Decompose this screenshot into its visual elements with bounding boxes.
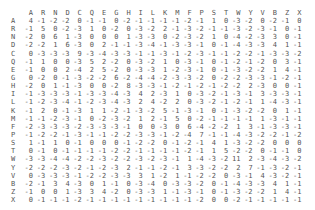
matrix-cell: 4	[265, 180, 277, 188]
matrix-cell: -2	[192, 33, 204, 41]
column-header: W	[228, 9, 240, 17]
matrix-cell: -2	[106, 82, 118, 90]
matrix-cell: 0	[94, 139, 106, 147]
matrix-cell: 3	[131, 172, 143, 180]
matrix-cell: -3	[45, 50, 57, 58]
matrix-cell: 1	[167, 90, 179, 98]
matrix-cell: -3	[155, 50, 167, 58]
matrix-cell: -1	[167, 188, 179, 196]
matrix-cell: 1	[143, 172, 155, 180]
matrix-cell: 6	[58, 41, 70, 49]
matrix-cell: -3	[228, 90, 240, 98]
matrix-cell: -2	[45, 115, 57, 123]
matrix-cell: -1	[289, 41, 301, 49]
matrix-cell: -3	[70, 41, 82, 49]
matrix-cell: -2	[70, 155, 82, 163]
matrix-cell: 1	[155, 58, 167, 66]
matrix-cell: -4	[265, 155, 277, 163]
matrix-cell: 0	[143, 123, 155, 131]
matrix-cell: -2	[277, 164, 289, 172]
matrix-cell: 2	[143, 90, 155, 98]
matrix-cell: 0	[216, 196, 228, 204]
matrix-cell: -1	[155, 147, 167, 155]
matrix-cell: 0	[21, 50, 33, 58]
matrix-cell: -1	[119, 196, 131, 204]
matrix-cell: -1	[33, 139, 45, 147]
matrix-cell: 0	[106, 33, 118, 41]
matrix-cell: -1	[82, 196, 94, 204]
matrix-cell: -1	[21, 107, 33, 115]
matrix-cell: -3	[204, 155, 216, 163]
matrix-cell: 0	[70, 17, 82, 25]
matrix-cell: -3	[277, 50, 289, 58]
matrix-cell: -3	[70, 82, 82, 90]
matrix-cell: -2	[216, 82, 228, 90]
matrix-cell: -1	[253, 164, 265, 172]
matrix-cell: 3	[241, 123, 253, 131]
matrix-cell: -3	[131, 58, 143, 66]
matrix-cell: -1	[277, 115, 289, 123]
matrix-cell: -1	[167, 17, 179, 25]
matrix-cell: -2	[94, 172, 106, 180]
matrix-cell: 6	[180, 123, 192, 131]
matrix-cell: -3	[131, 82, 143, 90]
matrix-cell: -3	[253, 74, 265, 82]
matrix-cell: -3	[70, 131, 82, 139]
matrix-cell: -1	[167, 107, 179, 115]
matrix-cell: -3	[265, 123, 277, 131]
matrix-cell: -2	[241, 25, 253, 33]
column-header: H	[119, 9, 131, 17]
matrix-cell: -1	[70, 139, 82, 147]
matrix-cell: 1	[277, 107, 289, 115]
matrix-cell: 1	[94, 180, 106, 188]
matrix-cell: -3	[131, 66, 143, 74]
matrix-cell: -3	[131, 25, 143, 33]
matrix-cell: 4	[58, 180, 70, 188]
matrix-cell: -2	[216, 155, 228, 163]
matrix-cell: -1	[167, 196, 179, 204]
matrix-cell: 5	[94, 66, 106, 74]
matrix-cell: -2	[180, 50, 192, 58]
matrix-cell: -3	[58, 90, 70, 98]
matrix-cell: -1	[155, 131, 167, 139]
matrix-cell: -1	[192, 188, 204, 196]
matrix-cell: -2	[192, 115, 204, 123]
matrix-cell: -1	[21, 90, 33, 98]
matrix-cell: -1	[241, 98, 253, 106]
matrix-cell: -2	[204, 123, 216, 131]
matrix-cell: 0	[216, 172, 228, 180]
matrix-cell: -1	[277, 17, 289, 25]
matrix-cell: -2	[253, 131, 265, 139]
matrix-cell: 0	[131, 123, 143, 131]
matrix-cell: -1	[94, 147, 106, 155]
matrix-cell: -1	[94, 17, 106, 25]
matrix-cell: -3	[106, 50, 118, 58]
matrix-cell: -1	[167, 147, 179, 155]
matrix-cell: -1	[155, 17, 167, 25]
matrix-cell: -1	[155, 115, 167, 123]
matrix-cell: 0	[21, 172, 33, 180]
matrix-cell: 0	[204, 196, 216, 204]
matrix-cell: -4	[70, 66, 82, 74]
matrix-cell: -3	[180, 74, 192, 82]
matrix-cell: 3	[253, 90, 265, 98]
matrix-cell: -1	[106, 180, 118, 188]
matrix-cell: 1	[33, 58, 45, 66]
column-header: N	[45, 9, 57, 17]
matrix-cell: -3	[119, 90, 131, 98]
matrix-cell: -1	[216, 41, 228, 49]
column-header: D	[58, 9, 70, 17]
matrix-cell: -3	[228, 25, 240, 33]
matrix-cell: -2	[241, 66, 253, 74]
matrix-cell: 0	[216, 33, 228, 41]
matrix-cell: -2	[106, 147, 118, 155]
matrix-cell: -2	[204, 172, 216, 180]
matrix-cell: 1	[277, 180, 289, 188]
matrix-cell: -2	[119, 131, 131, 139]
matrix-cell: -3	[167, 180, 179, 188]
matrix-cell: 3	[277, 58, 289, 66]
matrix-cell: 1	[94, 107, 106, 115]
matrix-cell: -2	[70, 196, 82, 204]
matrix-cell: 1	[58, 33, 70, 41]
matrix-cell: -1	[241, 196, 253, 204]
